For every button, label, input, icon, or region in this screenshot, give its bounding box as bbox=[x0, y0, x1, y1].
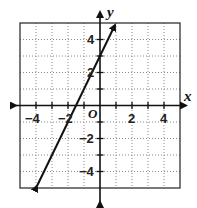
x-axis-label: x bbox=[183, 88, 192, 104]
y-tick-label: 4 bbox=[87, 32, 95, 47]
y-axis-label: y bbox=[105, 4, 114, 20]
y-tick-label: −2 bbox=[79, 131, 94, 146]
y-tick-label: 2 bbox=[87, 65, 94, 80]
x-tick-label: −4 bbox=[25, 111, 41, 126]
x-tick-label: 4 bbox=[160, 111, 168, 126]
origin-label: O bbox=[88, 106, 98, 121]
coordinate-plane: x y O −4 −2 2 4 4 2 −2 −4 bbox=[0, 0, 197, 208]
x-tick-label: −2 bbox=[58, 111, 73, 126]
x-tick-label: 2 bbox=[128, 111, 135, 126]
y-tick-label: −4 bbox=[79, 164, 95, 179]
